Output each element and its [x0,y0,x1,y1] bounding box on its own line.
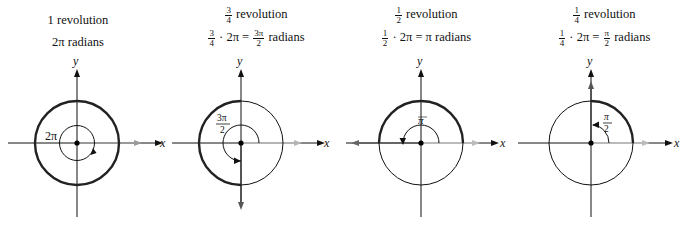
angle-label: π [418,114,424,126]
y-axis-label: y [416,54,423,68]
unit-circle-diagram: x y π 2 [516,0,688,225]
terminal-ray-arrow-icon [351,140,359,146]
origin-point [418,140,423,145]
angle-label-denominator: 2 [604,124,609,134]
y-axis-arrow-icon [238,69,244,77]
unit-circle-diagram: x y 3π 2 [172,0,344,225]
angle-arrow-icon [91,148,97,155]
angle-label-denominator: 2 [220,125,225,135]
y-axis-arrow-icon [588,69,594,77]
angle-label-numerator: π [604,112,609,122]
unit-circle-diagram: x y π [344,0,516,225]
panel-one-revolution: 1 revolution 2π radians x y 2π [0,0,172,225]
angle-arrow-icon [592,122,599,129]
panel-three-quarter-revolution: 34 revolution 34 · 2π = 3π2 radians x y … [172,0,344,225]
terminal-ray-arrow-icon [238,202,244,210]
y-axis-label: y [586,54,593,68]
panel-half-revolution: 12 revolution 12 · 2π = π radians x y π [344,0,516,225]
x-axis-label: x [323,136,330,150]
origin-point [588,140,593,145]
panel-quarter-revolution: 14 revolution 14 · 2π = π2 radians x y π… [516,0,688,225]
y-axis-arrow-icon [418,69,424,77]
y-axis-arrow-icon [74,69,80,77]
unit-circle-diagram: x y 2π [0,0,172,225]
y-axis-label: y [236,54,243,68]
x-axis-arrow-icon [665,140,673,146]
x-axis-label: x [499,136,506,150]
y-axis-label: y [72,54,79,68]
terminal-ray-arrow-icon [134,140,142,146]
initial-ray-arrow-icon [472,140,480,146]
x-axis-arrow-icon [491,140,499,146]
quarter-arc [591,101,633,143]
origin-point [238,140,243,145]
angle-label: 2π [45,129,57,143]
initial-ray-arrow-icon [294,140,302,146]
angle-arrow-icon [234,158,241,165]
terminal-ray-arrow-icon [588,81,594,89]
x-axis-label: x [673,136,680,150]
x-axis-label: x [159,136,166,150]
angle-label-numerator: 3π [217,113,227,123]
initial-ray-arrow-icon [642,140,650,146]
origin-point [74,140,79,145]
